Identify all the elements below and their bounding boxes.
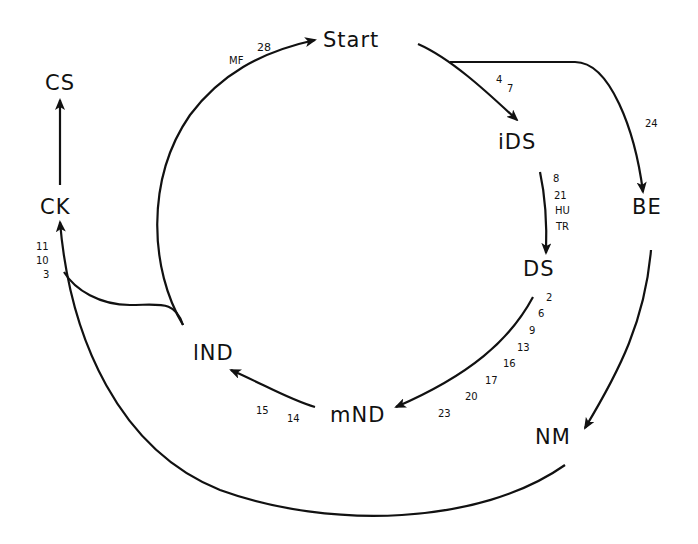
arrow-ids-to-ds <box>540 172 546 253</box>
node-cs: CS <box>45 71 75 95</box>
label-23: 23 <box>438 409 451 419</box>
label-mf: MF <box>229 56 243 66</box>
node-be: BE <box>632 195 662 219</box>
node-mnd: mND <box>330 403 385 427</box>
label-10: 10 <box>36 256 49 266</box>
label-17: 17 <box>485 376 498 386</box>
label-28: 28 <box>257 42 271 53</box>
label-20: 20 <box>465 392 478 402</box>
label-24: 24 <box>645 119 658 129</box>
label-8: 8 <box>553 174 559 184</box>
cycle-diagram-arrows <box>0 0 698 544</box>
label-2: 2 <box>546 293 552 303</box>
arrow-mnd-to-lnd <box>231 370 315 407</box>
label-21: 21 <box>554 191 567 201</box>
arrow-start-to-be <box>450 62 643 192</box>
label-6: 6 <box>538 309 544 319</box>
arrow-be-to-nm <box>585 250 651 428</box>
label-11: 11 <box>36 242 49 252</box>
node-start: Start <box>323 28 379 52</box>
node-lnd: lND <box>193 341 234 365</box>
label-9: 9 <box>529 326 535 336</box>
label-hu: HU <box>555 206 570 216</box>
label-tr: TR <box>556 222 569 232</box>
label-14: 14 <box>287 414 300 424</box>
label-13: 13 <box>517 343 530 353</box>
label-16: 16 <box>503 359 516 369</box>
label-7: 7 <box>507 84 513 94</box>
label-4: 4 <box>496 75 502 85</box>
arrow-lnd-to-start <box>157 40 315 325</box>
node-ids: iDS <box>498 130 536 154</box>
node-ck: CK <box>40 195 70 219</box>
node-ds: DS <box>523 257 555 281</box>
label-15: 15 <box>256 406 269 416</box>
arrow-nm-to-ck <box>60 222 565 516</box>
node-nm: NM <box>535 425 571 449</box>
label-3: 3 <box>43 270 49 280</box>
